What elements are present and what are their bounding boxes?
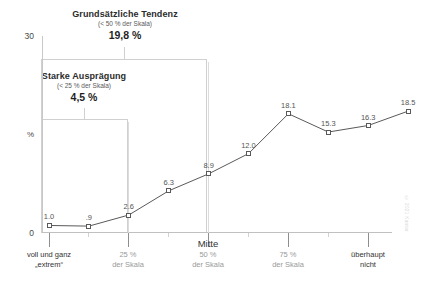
x-category-line1: voll und ganz [6, 250, 92, 260]
y-tick-label-30: 30 [8, 31, 34, 41]
bracket-stem-inner [84, 108, 85, 119]
annotation-subtitle: (< 25 % der Skala) [22, 82, 146, 89]
x-category-label-5: Mitte 50 % der Skala [165, 238, 251, 269]
data-point-marker [406, 109, 411, 114]
data-point-label: 12.0 [234, 141, 264, 150]
x-category-line2: der Skala [165, 260, 251, 270]
x-tick-major-1 [49, 233, 50, 247]
data-point-label: 6.3 [154, 178, 184, 187]
data-point-label: 1.0 [34, 212, 64, 221]
x-category-line1: überhaupt [325, 250, 411, 260]
x-axis-line [42, 232, 392, 233]
data-point-marker [246, 151, 251, 156]
x-category-heading-mitte: Mitte [165, 238, 251, 250]
x-tick-minor [248, 233, 249, 237]
x-tick-major-9 [368, 233, 369, 247]
data-point-marker [86, 224, 91, 229]
annotation-grundsaetzliche-tendenz: Grundsätzliche Tendenz (< 50 % der Skala… [44, 9, 206, 41]
x-category-label-7: 75 % der Skala [245, 250, 331, 269]
data-point-label: 18.5 [393, 98, 421, 107]
annotation-starke-auspraegung: Starke Ausprägung (< 25 % der Skala) 4,5… [22, 71, 146, 103]
x-category-line2: „extrem“ [6, 260, 92, 270]
x-tick-minor [88, 233, 89, 237]
y-tick-label-0: 0 [8, 228, 34, 238]
data-point-label: 16.3 [353, 113, 383, 122]
annotation-title: Starke Ausprägung [22, 71, 146, 81]
x-tick-minor [168, 233, 169, 237]
data-point-marker [286, 111, 291, 116]
gridline-50-percent [208, 62, 209, 233]
data-point-marker [366, 123, 371, 128]
bracket-stem-outer [124, 47, 125, 59]
chart-canvas: Grundsätzliche Tendenz (< 50 % der Skala… [0, 0, 421, 290]
data-point-label: 18.1 [273, 101, 303, 110]
annotation-value: 19,8 % [44, 29, 206, 41]
x-category-line1: 25 % [85, 250, 171, 260]
x-category-line2: der Skala [85, 260, 171, 270]
x-tick-minor [328, 233, 329, 237]
x-category-label-3: 25 % der Skala [85, 250, 171, 269]
data-point-marker [326, 130, 331, 135]
x-category-line2: der Skala [245, 260, 331, 270]
data-point-label: 15.3 [313, 119, 343, 128]
data-point-marker [47, 223, 52, 228]
x-category-label-1: voll und ganz „extrem“ [6, 250, 92, 269]
x-category-line1: 50 % [165, 250, 251, 260]
data-point-marker [126, 213, 131, 218]
annotation-subtitle: (< 50 % der Skala) [44, 20, 206, 27]
y-axis-title: % [8, 130, 34, 139]
data-point-marker [206, 171, 211, 176]
annotation-title: Grundsätzliche Tendenz [44, 9, 206, 19]
x-tick-major-7 [288, 233, 289, 247]
x-category-label-9: überhaupt nicht [325, 250, 411, 269]
data-point-label: 8.9 [194, 161, 224, 170]
annotation-value: 4,5 % [22, 91, 146, 103]
watermark: © 2021 Kantar [404, 196, 409, 232]
x-category-line2: nicht [325, 260, 411, 270]
data-point-marker [166, 188, 171, 193]
data-point-label: 2.6 [114, 202, 144, 211]
y-axis-line [42, 36, 43, 233]
data-point-label: .9 [74, 213, 104, 222]
x-category-line1: 75 % [245, 250, 331, 260]
x-tick-major-3 [128, 233, 129, 247]
